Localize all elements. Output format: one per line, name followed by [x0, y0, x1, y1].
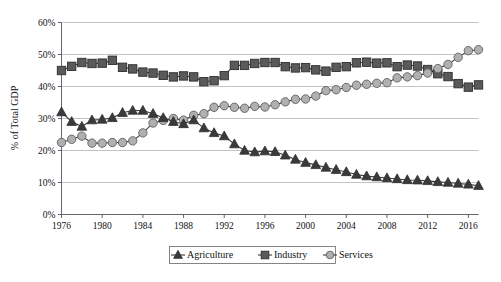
x-axis-tick-label: 1992 — [215, 221, 234, 231]
x-axis-tick-label: 2004 — [337, 221, 356, 231]
y-axis-tick-labels: 0%10%20%30%40%50%60% — [38, 18, 61, 220]
square-marker — [169, 73, 177, 81]
square-marker — [464, 83, 472, 91]
square-marker — [281, 62, 289, 70]
circle-marker — [423, 69, 431, 77]
series-services — [57, 46, 482, 148]
circle-marker — [149, 119, 157, 127]
y-axis-tick-label: 10% — [38, 178, 56, 188]
y-axis-title: % of Total GDP — [9, 85, 20, 150]
square-marker — [312, 66, 320, 74]
circle-marker — [326, 251, 334, 259]
circle-marker — [322, 86, 330, 94]
x-axis-tick-label: 1988 — [174, 221, 193, 231]
circle-marker — [57, 138, 65, 146]
square-marker — [139, 68, 147, 76]
triangle-marker — [199, 123, 209, 132]
y-axis-tick-label: 40% — [38, 82, 56, 92]
legend-label: Industry — [274, 249, 307, 260]
square-marker — [88, 59, 96, 67]
legend-label: Agriculture — [187, 249, 234, 260]
y-axis-tick-label: 60% — [38, 18, 56, 28]
circle-marker — [454, 53, 462, 61]
circle-marker — [291, 95, 299, 103]
triangle-marker — [291, 154, 301, 163]
x-axis-tick-label: 1996 — [255, 221, 274, 231]
square-marker — [98, 59, 106, 67]
circle-marker — [474, 46, 482, 54]
circle-marker — [78, 132, 86, 140]
square-marker — [393, 62, 401, 70]
x-axis-tick-label: 1980 — [93, 221, 112, 231]
square-marker — [240, 61, 248, 69]
y-axis-tick-label: 0% — [43, 210, 56, 220]
square-marker — [322, 67, 330, 75]
line-chart: 0%10%20%30%40%50%60% 1976198019841988199… — [0, 0, 501, 282]
x-axis-tick-label: 2000 — [296, 221, 315, 231]
y-axis-tick-label: 20% — [38, 146, 56, 156]
circle-marker — [373, 79, 381, 87]
circle-marker — [251, 102, 259, 110]
series-line — [62, 111, 479, 186]
circle-marker — [88, 139, 96, 147]
square-marker — [200, 78, 208, 86]
square-marker — [179, 72, 187, 80]
legend-label: Services — [339, 249, 373, 260]
circle-marker — [128, 137, 136, 145]
square-marker — [474, 81, 482, 89]
y-axis-tick-label: 30% — [38, 114, 56, 124]
square-marker — [67, 62, 75, 70]
circle-marker — [352, 81, 360, 89]
circle-marker — [342, 83, 350, 91]
square-marker — [383, 59, 391, 67]
circle-marker — [312, 92, 320, 100]
circle-marker — [98, 139, 106, 147]
triangle-marker — [57, 107, 67, 116]
square-marker — [251, 59, 259, 67]
circle-marker — [393, 74, 401, 82]
square-marker — [128, 65, 136, 73]
x-axis-tick-label: 1984 — [133, 221, 152, 231]
x-axis-tick-label: 1976 — [52, 221, 71, 231]
square-marker — [403, 61, 411, 69]
square-marker — [291, 64, 299, 72]
square-marker — [444, 72, 452, 80]
square-marker — [373, 59, 381, 67]
x-axis-tick-label: 2008 — [377, 221, 396, 231]
circle-marker — [210, 103, 218, 111]
circle-marker — [383, 78, 391, 86]
square-marker — [118, 63, 126, 71]
data-series — [57, 46, 484, 190]
x-axis-tick-label: 2012 — [418, 221, 437, 231]
circle-marker — [403, 73, 411, 81]
circle-marker — [362, 80, 370, 88]
gridlines — [62, 23, 479, 183]
square-marker — [454, 79, 462, 87]
square-marker — [413, 62, 421, 70]
x-axis-tick-label: 2016 — [459, 221, 478, 231]
square-marker — [230, 61, 238, 69]
square-marker — [352, 59, 360, 67]
square-marker — [108, 56, 116, 64]
circle-marker — [434, 64, 442, 72]
circle-marker — [67, 135, 75, 143]
triangle-marker — [413, 175, 423, 184]
chart-legend: AgricultureIndustryServices — [170, 247, 373, 264]
triangle-marker — [240, 145, 250, 154]
y-axis-tick-label: 50% — [38, 50, 56, 60]
circle-marker — [301, 95, 309, 103]
square-marker — [261, 58, 269, 66]
circle-marker — [332, 86, 340, 94]
circle-marker — [200, 110, 208, 118]
circle-marker — [220, 102, 228, 110]
circle-marker — [261, 103, 269, 111]
circle-marker — [230, 103, 238, 111]
square-marker — [271, 58, 279, 66]
square-marker — [342, 62, 350, 70]
square-marker — [210, 77, 218, 85]
square-marker — [332, 63, 340, 71]
circle-marker — [108, 138, 116, 146]
square-marker — [149, 69, 157, 77]
square-marker — [362, 58, 370, 66]
circle-marker — [444, 60, 452, 68]
